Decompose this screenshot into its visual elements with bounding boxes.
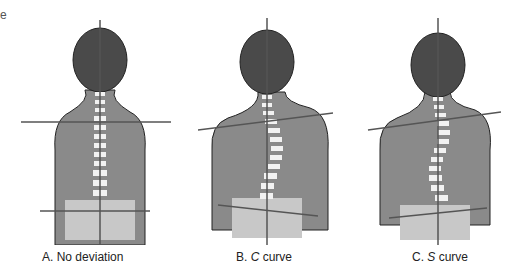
caption-c-prefix: C. xyxy=(412,250,424,264)
figure-no-deviation xyxy=(15,0,185,245)
back-illustration-s-curve xyxy=(345,0,512,245)
caption-b-prefix: B. xyxy=(236,250,247,264)
caption-b-text: curve xyxy=(259,250,292,264)
cropped-text-fragment: e xyxy=(0,8,7,22)
back-illustration-c-curve xyxy=(190,0,360,245)
caption-b: B. C curve xyxy=(236,250,292,264)
figure-s-curve xyxy=(345,0,512,245)
caption-a-prefix: A. xyxy=(42,250,53,264)
caption-a-text: No deviation xyxy=(57,250,124,264)
caption-a: A. No deviation xyxy=(42,250,123,264)
back-illustration-straight xyxy=(15,0,185,245)
caption-c-text: curve xyxy=(435,250,468,264)
figure-c-curve xyxy=(190,0,360,245)
caption-c: C. S curve xyxy=(412,250,468,264)
